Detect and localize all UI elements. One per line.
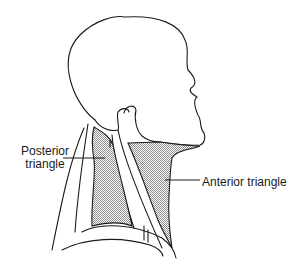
neck-back-outline — [75, 124, 88, 232]
posterior-triangle-label: Posterior triangle — [14, 145, 76, 171]
neck-triangles-diagram — [0, 0, 303, 266]
posterior-triangle-region — [92, 127, 132, 226]
anterior-triangle-label: Anterior triangle — [202, 176, 287, 189]
anterior-triangle-region — [128, 142, 200, 248]
posterior-label-line2: triangle — [14, 158, 76, 171]
